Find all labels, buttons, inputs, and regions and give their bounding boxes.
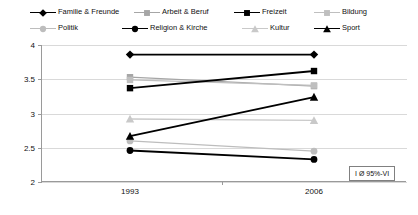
chart-container: Familie & FreundeArbeit & BerufFreizeitB…	[0, 0, 418, 215]
series-line	[130, 119, 314, 120]
legend-item-bildung[interactable]: Bildung	[314, 4, 406, 20]
legend-item-freizeit[interactable]: Freizeit	[234, 4, 314, 20]
x-axis-tick-label: 2006	[305, 187, 323, 196]
legend-item-label: Bildung	[342, 7, 367, 17]
data-point	[126, 50, 134, 58]
gridline	[42, 182, 407, 183]
legend-item-familie-freunde[interactable]: Familie & Freunde	[30, 4, 134, 20]
data-point	[310, 50, 318, 58]
x-axis-tick-label: 1993	[121, 187, 139, 196]
series-line	[130, 71, 314, 88]
data-point	[311, 68, 317, 74]
confidence-interval-note: I Ø 95%-VI	[349, 166, 395, 181]
legend-marker-icon	[314, 23, 340, 34]
legend-item-label: Arbeit & Beruf	[162, 7, 209, 17]
legend-marker-icon	[30, 23, 56, 34]
y-axis-tick-mark	[38, 182, 42, 183]
series-line	[130, 141, 314, 151]
chart-legend: Familie & FreundeArbeit & BerufFreizeitB…	[30, 4, 406, 36]
legend-marker-icon	[242, 23, 268, 34]
series-plot	[42, 45, 407, 182]
data-point	[311, 156, 318, 163]
legend-marker-icon	[122, 23, 148, 34]
legend-marker-icon	[134, 7, 160, 18]
legend-item-politik[interactable]: Politik	[30, 20, 122, 36]
legend-item-religion-kirche[interactable]: Religion & Kirche	[122, 20, 242, 36]
y-axis-tick-label: 2.5	[24, 143, 35, 152]
legend-row: PolitikReligion & KircheKulturSport	[30, 20, 406, 36]
legend-item-sport[interactable]: Sport	[314, 20, 386, 36]
legend-item-label: Politik	[58, 23, 78, 33]
y-axis-tick-label: 3	[31, 109, 35, 118]
series-line	[130, 150, 314, 159]
legend-item-label: Religion & Kirche	[150, 23, 208, 33]
y-axis-tick-label: 3.5	[24, 75, 35, 84]
series-line	[130, 80, 314, 85]
data-point	[311, 148, 318, 155]
series-sport	[126, 93, 318, 140]
legend-item-label: Freizeit	[262, 7, 287, 17]
legend-item-kultur[interactable]: Kultur	[242, 20, 314, 36]
y-axis-tick-label: 2	[31, 178, 35, 187]
y-axis-tick-label: 4	[31, 41, 35, 50]
data-point	[127, 85, 133, 91]
series-line	[130, 97, 314, 136]
legend-marker-icon	[30, 7, 56, 18]
data-point	[127, 77, 133, 83]
series-freizeit	[127, 68, 317, 92]
legend-marker-icon	[234, 7, 260, 18]
legend-row: Familie & FreundeArbeit & BerufFreizeitB…	[30, 4, 406, 20]
data-point	[127, 147, 134, 154]
data-point	[311, 82, 317, 88]
legend-marker-icon	[314, 7, 340, 18]
legend-item-arbeit-beruf[interactable]: Arbeit & Beruf	[134, 4, 234, 20]
legend-item-label: Familie & Freunde	[58, 7, 119, 17]
plot-area: 22.533.54 19932006	[41, 45, 406, 182]
legend-item-label: Kultur	[270, 23, 290, 33]
series-familie-freunde	[126, 50, 318, 58]
legend-item-label: Sport	[342, 23, 360, 33]
series-arbeit-beruf	[127, 74, 317, 89]
